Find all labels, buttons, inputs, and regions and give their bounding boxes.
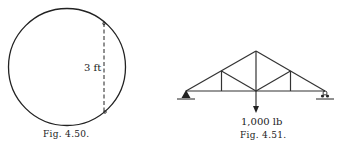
load-arrow (253, 91, 259, 113)
dimension-label: 3 ft (84, 62, 101, 74)
fig-4-50-caption: Fig. 4.50. (43, 129, 90, 140)
fig-4-50-drawing (9, 9, 126, 126)
figures-canvas (0, 0, 341, 145)
left-diagonal (222, 71, 257, 91)
roller-support-right (316, 91, 334, 99)
fig-4-51-caption: Fig. 4.51. (240, 130, 287, 141)
circle (9, 9, 126, 126)
right-diagonal (256, 71, 291, 91)
fig-4-51-truss (186, 51, 325, 91)
load-label: 1,000 lb (241, 116, 282, 128)
